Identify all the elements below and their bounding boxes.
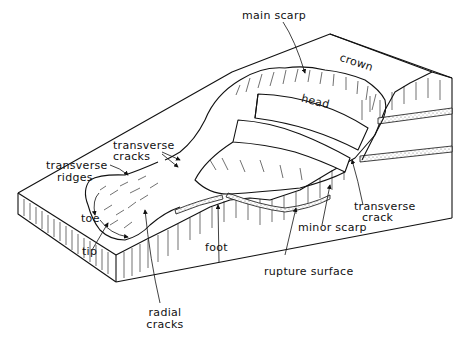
left-face-hatching [24,199,108,274]
label-transverse-cracks-2: cracks [113,151,150,163]
strata-layers [360,108,452,162]
label-transverse-ridges-2: ridges [57,172,93,184]
label-tip: tip [82,246,97,258]
rupture-surface-band [175,193,330,214]
head-block [233,94,368,172]
label-toe: toe [81,213,100,225]
label-transverse-crack-2: crack [362,212,393,224]
label-minor-scarp: minor scarp [298,222,367,234]
label-foot: foot [205,242,228,254]
label-rupture-surface: rupture surface [264,266,353,278]
label-main-scarp: main scarp [242,10,306,22]
label-radial-cracks-2: cracks [140,319,190,331]
